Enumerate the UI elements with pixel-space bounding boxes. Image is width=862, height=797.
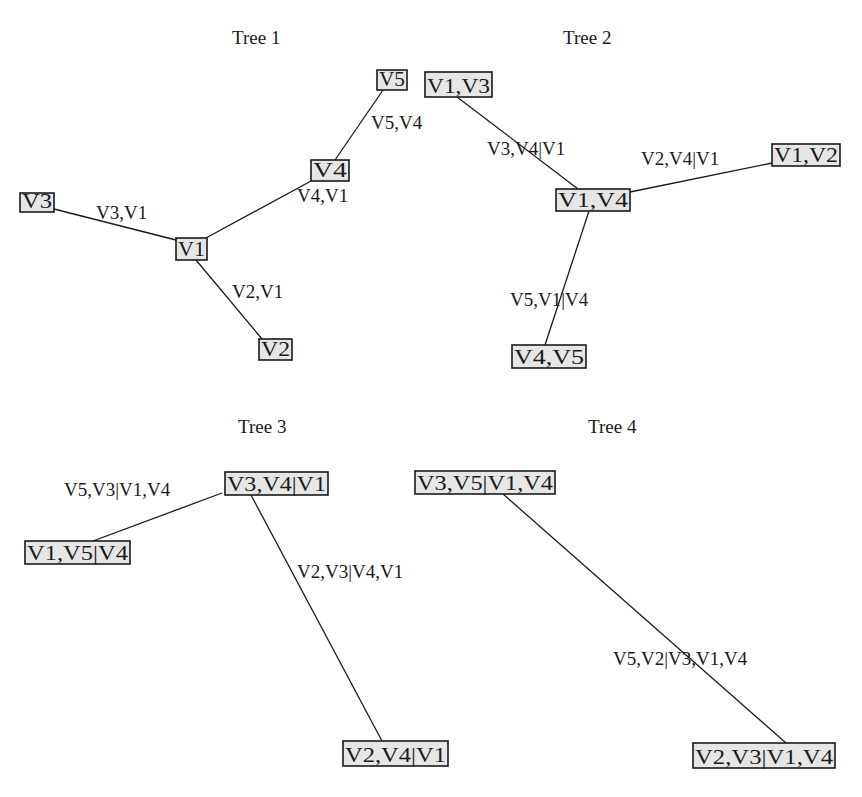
node-label: V1,V5|V4 — [27, 541, 129, 565]
tree-node: V2,V3|V1,V4 — [693, 743, 835, 769]
tree-node: V3,V5|V1,V4 — [415, 471, 555, 495]
node-label: V2,V3|V1,V4 — [695, 745, 834, 769]
tree-edge: V2,V1 — [196, 260, 283, 339]
node-label: V2,V4|V1 — [345, 743, 446, 767]
tree-edge: V3,V1 — [54, 202, 176, 240]
tree-node: V4,V5 — [512, 345, 586, 369]
tree-node: V3 — [20, 189, 54, 213]
edge-label: V3,V1 — [96, 202, 147, 223]
tree-title: Tree 4 — [588, 416, 637, 437]
node-label: V3,V4|V1 — [227, 472, 326, 496]
node-label: V3 — [22, 189, 52, 213]
node-label: V1,V2 — [774, 143, 838, 167]
edge-label: V5,V3|V1,V4 — [64, 479, 171, 500]
node-label: V4 — [313, 158, 348, 182]
node-label: V3,V5|V1,V4 — [417, 471, 554, 495]
edge-label: V2,V1 — [232, 281, 283, 302]
tree-title: Tree 2 — [563, 27, 611, 48]
node-label: V4,V5 — [514, 345, 584, 369]
edge-label: V2,V3|V4,V1 — [297, 561, 403, 582]
tree-edge: V3,V4|V1 — [457, 97, 578, 189]
edge-label: V5,V4 — [371, 112, 423, 133]
tree-title: Tree 3 — [238, 416, 286, 437]
vine-tree-diagram: Tree 1V5,V4V4,V1V3,V1V2,V1V5V4V3V1V2Tree… — [0, 0, 862, 797]
tree-1: Tree 1V5,V4V4,V1V3,V1V2,V1V5V4V3V1V2 — [20, 27, 423, 361]
tree-3: Tree 3V5,V3|V1,V4V2,V3|V4,V1V3,V4|V1V1,V… — [25, 416, 448, 767]
tree-node: V4 — [311, 158, 349, 182]
tree-edge: V5,V4 — [335, 90, 423, 160]
node-label: V1 — [178, 237, 205, 261]
edge-label: V5,V2|V3,V1,V4 — [613, 648, 748, 669]
tree-title: Tree 1 — [232, 27, 280, 48]
edge-label: V4,V1 — [297, 185, 348, 206]
node-label: V1,V4 — [558, 188, 629, 212]
tree-node: V1 — [176, 237, 207, 261]
edge-line — [545, 211, 589, 345]
tree-node: V3,V4|V1 — [225, 472, 328, 496]
edge-label: V2,V4|V1 — [641, 148, 719, 169]
tree-edge: V5,V2|V3,V1,V4 — [503, 494, 786, 743]
edge-line — [206, 181, 311, 238]
tree-edge: V5,V1|V4 — [510, 211, 589, 345]
tree-node: V5 — [377, 67, 407, 91]
node-label: V5 — [379, 67, 405, 91]
tree-2: Tree 2V3,V4|V1V2,V4|V1V5,V1|V4V1,V3V1,V4… — [425, 27, 840, 369]
node-label: V2 — [261, 337, 290, 361]
edge-line — [251, 495, 382, 741]
tree-node: V1,V4 — [556, 188, 630, 212]
tree-edge: V4,V1 — [206, 181, 348, 238]
edge-label: V3,V4|V1 — [487, 138, 565, 159]
tree-edge: V2,V3|V4,V1 — [251, 495, 403, 741]
edge-line — [503, 494, 786, 743]
edge-label: V5,V1|V4 — [510, 289, 589, 310]
node-label: V1,V3 — [427, 74, 490, 98]
tree-edge: V5,V3|V1,V4 — [64, 479, 222, 541]
tree-node: V1,V3 — [425, 72, 492, 98]
tree-4: Tree 4V5,V2|V3,V1,V4V3,V5|V1,V4V2,V3|V1,… — [415, 416, 835, 769]
tree-node: V2,V4|V1 — [343, 741, 448, 767]
tree-node: V1,V2 — [772, 143, 840, 167]
tree-node: V2 — [259, 337, 292, 361]
tree-node: V1,V5|V4 — [25, 541, 130, 565]
tree-edge: V2,V4|V1 — [630, 148, 772, 192]
edge-line — [93, 493, 222, 541]
